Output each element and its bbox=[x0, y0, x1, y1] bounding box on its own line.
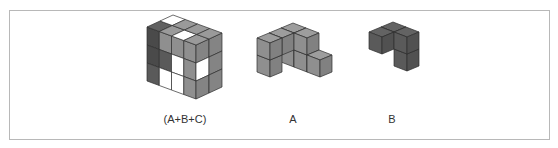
label-a: A bbox=[289, 113, 296, 125]
piece-a-figure bbox=[257, 23, 332, 77]
label-b: B bbox=[388, 113, 395, 125]
combined-cube-figure bbox=[147, 15, 222, 99]
piece-b-figure bbox=[369, 22, 419, 71]
label-combined: (A+B+C) bbox=[164, 113, 207, 125]
cube-puzzle-figures bbox=[0, 0, 558, 148]
